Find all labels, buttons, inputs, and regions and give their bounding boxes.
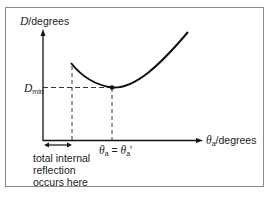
tir-annotation: total internal reflection occurs here [33, 152, 90, 188]
minimum-point [110, 85, 115, 90]
annotation-line: occurs here [33, 176, 90, 188]
x-axis-label: θa/degrees [206, 134, 256, 150]
deviation-curve [71, 32, 188, 88]
min-angle-label: θa = θa′ [99, 144, 132, 160]
y-axis-arrow-icon [41, 29, 46, 36]
annotation-line: total internal [33, 152, 90, 164]
annotation-line: reflection [33, 164, 90, 176]
x-axis-arrow-icon [196, 138, 203, 143]
arrow-right-icon [67, 143, 72, 148]
arrow-left-icon [44, 143, 49, 148]
dmin-label: Dmin [24, 82, 44, 98]
y-axis-label: D/degrees [20, 15, 69, 27]
